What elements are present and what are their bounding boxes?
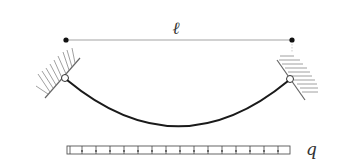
left-anchor-dot-icon [63, 37, 68, 42]
span-length-label: ℓ [172, 18, 179, 38]
beam-diagram: ℓ [0, 0, 339, 164]
distributed-load [67, 146, 290, 154]
right-hatch-icon [279, 56, 318, 92]
load-intensity-label: q [306, 139, 317, 159]
cable-curve [67, 80, 288, 126]
right-support [277, 56, 318, 100]
left-support [36, 48, 80, 98]
right-anchor-dot-icon [289, 37, 294, 42]
span-dimension [63, 37, 294, 52]
load-arrows-icon [70, 146, 278, 154]
